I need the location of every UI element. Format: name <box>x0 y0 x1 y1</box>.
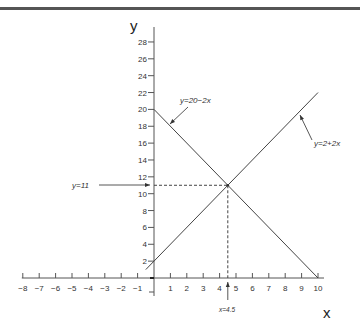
x-tick-label: 3 <box>201 284 206 293</box>
x-tick-label: −2 <box>117 284 127 293</box>
x-tick-label: −1 <box>133 284 143 293</box>
x-tick-label: 9 <box>299 284 304 293</box>
intersection-point <box>227 184 230 187</box>
y-tick-label: 16 <box>138 139 147 148</box>
x-tick-label: 10 <box>314 284 323 293</box>
chart: −8−7−6−5−4−3−2−1123456789102468101214161… <box>0 0 360 334</box>
y-tick-label: 2 <box>143 257 148 266</box>
x-tick-label: −3 <box>100 284 110 293</box>
x-tick-label: 6 <box>250 284 255 293</box>
arrow-head-icon <box>226 282 230 287</box>
y-tick-label: 6 <box>143 223 148 232</box>
x-tick-label: −4 <box>84 284 94 293</box>
y-tick-label: 22 <box>138 89 147 98</box>
y-tick-label: 12 <box>138 173 147 182</box>
y-axis-title: y <box>130 17 138 34</box>
y-tick-label: 28 <box>138 38 147 47</box>
y-tick-label: 14 <box>138 156 147 165</box>
axes <box>22 27 324 296</box>
series-line-1 <box>154 109 318 278</box>
y-tick-label: 10 <box>138 190 147 199</box>
y-eq-label: y=11 <box>71 181 89 190</box>
arrow-head-icon <box>300 115 304 120</box>
x-tick-label: 8 <box>283 284 288 293</box>
y-tick-label: 26 <box>138 55 147 64</box>
x-tick-label: −7 <box>35 284 45 293</box>
guides <box>99 107 312 300</box>
x-eq-label: x=4.5 <box>218 306 235 313</box>
ticks: −8−7−6−5−4−3−2−1123456789102468101214161… <box>18 38 323 293</box>
x-tick-label: 5 <box>234 284 239 293</box>
line2-label: y=2+2x <box>313 139 341 148</box>
series-line-2 <box>146 93 318 270</box>
x-tick-label: −5 <box>67 284 77 293</box>
y-tick-label: 4 <box>143 240 148 249</box>
y-tick-label: 24 <box>138 72 147 81</box>
x-tick-label: 2 <box>185 284 190 293</box>
x-tick-label: 1 <box>168 284 173 293</box>
y-tick-label: 8 <box>143 207 148 216</box>
y-tick-label: 20 <box>138 105 147 114</box>
x-tick-label: 7 <box>267 284 272 293</box>
x-axis-title: x <box>323 304 331 321</box>
x-tick-label: −8 <box>18 284 28 293</box>
x-tick-label: −6 <box>51 284 61 293</box>
arrow-head-icon <box>145 183 150 187</box>
x-tick-label: 4 <box>217 284 222 293</box>
line1-label: y=20−2x <box>179 96 212 105</box>
y-tick-label: 18 <box>138 122 147 131</box>
